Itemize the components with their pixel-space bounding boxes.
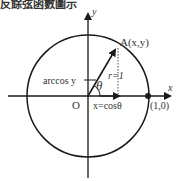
origin-label: O — [72, 99, 80, 111]
x-eq-label: x=cosθ — [93, 100, 122, 111]
point-a-label: A(x,y) — [120, 36, 149, 49]
radius-label: r=1 — [108, 70, 124, 81]
arccos-label: arccos y — [43, 75, 76, 86]
unit-point-dot — [145, 93, 151, 99]
x-axis-label: x — [167, 82, 173, 93]
angle-label: θ — [96, 78, 103, 93]
y-axis-label: y — [91, 6, 97, 17]
unit-point-label: (1,0) — [150, 100, 169, 112]
unit-circle-diagram: A(x,y) r=1 θ arccos y O x=cosθ (1,0) x y — [0, 0, 180, 181]
